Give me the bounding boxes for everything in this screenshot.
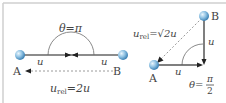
sphere-b-left [118, 50, 128, 60]
arrowhead-horizontal [197, 63, 203, 68]
sphere-b-right [199, 11, 209, 21]
u-label-left: u [37, 56, 43, 67]
relative-arrowhead [25, 69, 31, 74]
angle-label-half-pi: θ= [189, 79, 203, 90]
sphere-a [15, 50, 25, 60]
left-panel: θ=π u u A urel=2u [12, 22, 113, 96]
angle-fraction-denominator: 2 [207, 86, 213, 96]
angle-arc-half-pi [182, 44, 203, 65]
u-label-vertical: u [208, 36, 214, 47]
relative-velocity-diagonal [160, 18, 202, 60]
arrowhead-left [72, 53, 78, 58]
u-label-right: u [101, 56, 107, 67]
u-label-horizontal: u [175, 66, 181, 77]
point-b-label-left: B [113, 65, 121, 78]
angle-arc-pi [48, 32, 94, 55]
point-b-label-right: B [211, 10, 219, 23]
relative-velocity-label-left: urel=2u [50, 82, 90, 96]
point-a-label-right: A [148, 72, 158, 85]
point-a-label-left: A [12, 65, 22, 78]
angle-label-pi: θ=π [59, 22, 83, 35]
relative-velocity-label-right: urel=√2u [133, 28, 177, 41]
arrowhead-right [65, 53, 71, 58]
right-panel: B B A u u urel=√2u θ= π 2 [112, 10, 219, 96]
angle-fraction-numerator: π [206, 74, 214, 84]
arrowhead-vertical [202, 59, 207, 65]
sphere-a-right [149, 60, 159, 70]
relative-velocity-diagram: θ=π u u A urel=2u B [0, 0, 226, 103]
